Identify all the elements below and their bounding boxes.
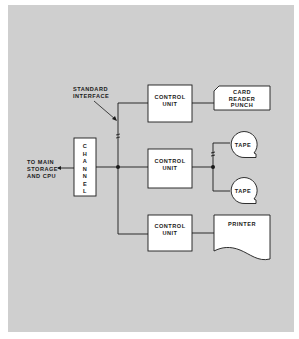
host-label: TO MAIN STORAGE AND CPU <box>27 159 74 179</box>
svg-text:CONTROL: CONTROL <box>154 158 185 164</box>
channel-letter: E <box>83 181 87 187</box>
svg-text:PRINTER: PRINTER <box>228 221 256 227</box>
svg-text:CARD: CARD <box>233 89 251 95</box>
io-channel-diagram: STANDARD INTERFACE TO MAIN STORAGE AND C… <box>0 0 299 339</box>
svg-text:CONTROL: CONTROL <box>154 223 185 229</box>
channel-letter: C <box>83 143 88 149</box>
channel-letter: N <box>83 166 88 172</box>
control-unit-1: CONTROL UNIT <box>148 85 192 122</box>
annotation-pointer-line <box>94 101 115 119</box>
host-line-2: STORAGE <box>27 166 58 172</box>
standard-interface-bus <box>96 103 148 234</box>
annotation-line-2: INTERFACE <box>73 93 109 99</box>
channel-letter: N <box>83 173 88 179</box>
control-unit-2: CONTROL UNIT <box>148 149 192 188</box>
host-line-1: TO MAIN <box>27 159 54 165</box>
svg-text:TAPE: TAPE <box>235 188 252 194</box>
svg-text:UNIT: UNIT <box>162 101 177 107</box>
svg-text:CONTROL: CONTROL <box>154 94 185 100</box>
channel-letter: H <box>83 151 88 157</box>
tape-drive-1: TAPE <box>231 132 257 158</box>
card-reader-punch: CARD READER PUNCH <box>214 86 270 110</box>
standard-interface-annotation: STANDARD INTERFACE <box>73 86 117 121</box>
tape-drive-2: TAPE <box>231 178 257 204</box>
svg-text:TAPE: TAPE <box>235 142 252 148</box>
annotation-line-1: STANDARD <box>73 86 108 92</box>
svg-text:UNIT: UNIT <box>162 230 177 236</box>
channel-letter: L <box>83 188 87 194</box>
printer: PRINTER <box>214 215 270 260</box>
host-line-3: AND CPU <box>27 173 56 179</box>
channel-letter: A <box>83 158 88 164</box>
control-unit-3: CONTROL UNIT <box>148 215 192 251</box>
bus-junction-dot <box>116 165 120 169</box>
svg-text:PUNCH: PUNCH <box>231 102 253 108</box>
svg-text:READER: READER <box>229 96 256 102</box>
channel-box: C H A N N E L <box>74 138 96 196</box>
svg-text:UNIT: UNIT <box>162 165 177 171</box>
tape-junction-dot <box>211 165 215 169</box>
